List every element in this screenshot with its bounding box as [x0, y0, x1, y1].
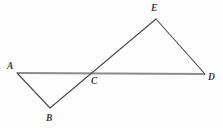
figure-canvas [0, 0, 223, 128]
vertex-label-A: A [7, 61, 13, 71]
segments-group [17, 19, 205, 108]
segment-ED [156, 19, 205, 74]
segment-AD [17, 73, 205, 74]
geometry-figure: A B C D E [0, 0, 223, 128]
vertex-label-C: C [91, 76, 97, 86]
vertex-label-D: D [208, 72, 215, 82]
vertex-label-B: B [46, 113, 52, 123]
vertex-label-E: E [151, 3, 157, 13]
segment-BE [50, 19, 156, 108]
segment-AB [17, 73, 50, 108]
